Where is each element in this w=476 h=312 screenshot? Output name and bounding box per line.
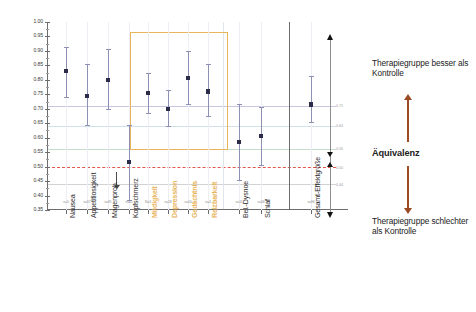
y-tick-label: 0.85 — [33, 63, 43, 68]
eq-marker-up-icon — [327, 162, 333, 167]
y-tick-minor — [46, 130, 49, 131]
axis-arrow-up-icon — [327, 34, 333, 40]
y-tick-label: 0.95 — [33, 34, 43, 39]
error-bar-cap — [106, 49, 111, 50]
y-tick — [45, 167, 50, 168]
axis-arrow-down-icon — [327, 212, 333, 218]
y-tick-minor — [46, 58, 49, 59]
y-tick-label: 0.40 — [33, 193, 43, 198]
legend-text-equivalence: Äquivalenz — [372, 148, 476, 159]
category-label: Nausea — [69, 194, 77, 218]
error-bar-cap — [166, 126, 171, 127]
y-tick — [45, 210, 50, 211]
data-point-marker[interactable] — [106, 78, 110, 82]
y-tick-minor — [46, 174, 49, 175]
data-point-marker[interactable] — [259, 134, 263, 138]
y-tick-minor — [46, 188, 49, 189]
y-tick-minor — [46, 203, 49, 204]
error-bar-cap — [309, 122, 314, 123]
y-tick — [45, 36, 50, 37]
error-bar-cap — [127, 125, 132, 126]
arrow-down-icon — [407, 166, 409, 208]
data-point-marker[interactable] — [166, 107, 170, 111]
x-tick — [129, 210, 130, 214]
error-bar-cap — [237, 180, 242, 181]
y-tick — [45, 138, 50, 139]
x-tick — [148, 210, 149, 214]
y-tick — [45, 80, 50, 81]
y-tick-label: 0.90 — [33, 48, 43, 53]
error-bar-cap — [206, 116, 211, 117]
error-bar-cap — [64, 47, 69, 48]
data-point-marker[interactable] — [186, 76, 190, 80]
y-tick — [45, 109, 50, 110]
y-tick-label: 0.80 — [33, 77, 43, 82]
error-bar-cap — [166, 90, 171, 91]
y-tick — [45, 51, 50, 52]
highlight-box — [130, 32, 228, 150]
eq-marker-down-icon — [327, 152, 333, 157]
eq-value-071: 0.71 — [336, 104, 343, 108]
category-label: Reizbarkeit — [211, 182, 219, 218]
legend-text-better: Therapiegruppe besser als Kontrolle — [372, 58, 476, 78]
y-tick — [45, 123, 50, 124]
error-bar-cap — [186, 51, 191, 52]
error-bar-cap — [146, 113, 151, 114]
y-tick-minor — [46, 159, 49, 160]
x-tick — [188, 210, 189, 214]
error-bar-cap — [85, 125, 90, 126]
y-tick — [45, 22, 50, 23]
y-tick-minor — [46, 44, 49, 45]
y-tick-label: 0.70 — [33, 106, 43, 111]
eq-value-056: 0.56 — [336, 147, 343, 151]
y-tick-label: 0.35 — [33, 207, 43, 212]
data-point-marker[interactable] — [64, 69, 68, 73]
y-tick-label: 0.55 — [33, 150, 43, 155]
legend-panel: Therapiegruppe besser als Kontrolle Äqui… — [366, 0, 476, 312]
x-tick — [87, 210, 88, 214]
reference-line-050 — [47, 167, 336, 168]
error-bar-cap — [206, 64, 211, 65]
y-tick-minor — [46, 87, 49, 88]
subtick-label: n=5 — [63, 200, 68, 204]
error-bar-cap — [237, 104, 242, 105]
error-bar-cap — [146, 73, 151, 74]
data-point-marker[interactable] — [309, 102, 313, 106]
y-tick — [45, 152, 50, 153]
x-tick — [311, 210, 312, 214]
data-point-marker[interactable] — [127, 160, 131, 164]
eq-value-044: 0.44 — [336, 183, 343, 187]
error-bar-cap — [85, 64, 90, 65]
data-point-marker[interactable] — [146, 91, 150, 95]
equivalence-axis: 0.71 0.64 0.56 0.50 0.44 — [330, 40, 331, 212]
category-label: Gedächtnis — [191, 181, 199, 218]
y-tick-label: 0.50 — [33, 164, 43, 169]
x-tick — [108, 210, 109, 214]
data-point-marker[interactable] — [237, 140, 241, 144]
y-tick-label: 0.45 — [33, 179, 43, 184]
y-tick — [45, 94, 50, 95]
error-bar-cap — [309, 76, 314, 77]
chart-root: 1.00 0.95 0.90 0.85 0.80 0.75 0.70 0.65 … — [0, 0, 476, 312]
error-bar-cap — [259, 165, 264, 166]
y-tick-label: 1.00 — [33, 19, 43, 24]
x-tick — [239, 210, 240, 214]
subtick-label: n=4 — [205, 200, 210, 204]
category-label: Müdigkeit — [151, 186, 159, 218]
y-tick-label: 0.60 — [33, 135, 43, 140]
error-bar-cap — [186, 104, 191, 105]
data-point-marker[interactable] — [206, 89, 210, 93]
x-tick — [168, 210, 169, 214]
y-tick-minor — [46, 73, 49, 74]
x-tick — [208, 210, 209, 214]
x-tick — [66, 210, 67, 214]
data-point-marker[interactable] — [85, 94, 89, 98]
category-label: Appetitlosigkeit — [90, 173, 98, 218]
y-tick-label: 0.65 — [33, 121, 43, 126]
error-bar — [311, 76, 312, 122]
error-bar-cap — [64, 97, 69, 98]
arrow-up-icon — [407, 100, 409, 142]
category-label: Magenprob. — [111, 182, 119, 218]
y-tick-minor — [46, 29, 49, 30]
error-bar-cap — [259, 107, 264, 108]
